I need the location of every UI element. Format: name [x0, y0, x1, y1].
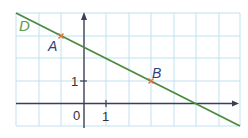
x-unit-label: 1: [102, 109, 109, 124]
line-d: [16, 13, 240, 126]
x-axis-arrow-icon: [232, 101, 239, 107]
origin-label: 0: [73, 108, 80, 123]
y-unit-label: 1: [71, 74, 78, 89]
point-b-label: B: [152, 65, 161, 81]
y-axis: [80, 12, 87, 128]
x-axis: [16, 100, 239, 107]
coordinate-plane: D A B 0 1 1: [0, 0, 248, 138]
line-d-label: D: [19, 17, 30, 34]
point-a-label: A: [47, 38, 57, 54]
